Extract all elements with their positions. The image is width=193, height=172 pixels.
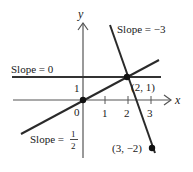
slope-0-label: Slope = 0 — [11, 63, 54, 75]
origin-label: 0 — [74, 106, 80, 118]
point-origin — [80, 97, 86, 103]
point-endpoint — [149, 145, 155, 151]
slope-half-label: Slope = 1 2 — [30, 129, 78, 151]
x-tick-label-1: 1 — [102, 107, 108, 119]
intersection-label: (2, 1) — [131, 81, 155, 94]
x-tick-label-2: 2 — [124, 107, 130, 119]
x-axis-label: x — [174, 93, 181, 107]
point-intersection — [124, 74, 130, 80]
y-axis-label: y — [77, 7, 84, 21]
endpoint-label: (3, −2) — [112, 142, 142, 155]
coordinate-diagram: y x 0 1 2 3 1 Slope = −3 Slope = 0 (2, 1… — [0, 0, 193, 172]
slope-half-prefix: Slope = — [30, 133, 67, 145]
x-tick-label-3: 3 — [147, 107, 153, 119]
slope-half-numerator: 1 — [71, 129, 76, 139]
y-tick-label-1: 1 — [74, 82, 80, 94]
slope-neg3-label: Slope = −3 — [117, 23, 166, 35]
slope-half-denominator: 2 — [71, 141, 76, 151]
